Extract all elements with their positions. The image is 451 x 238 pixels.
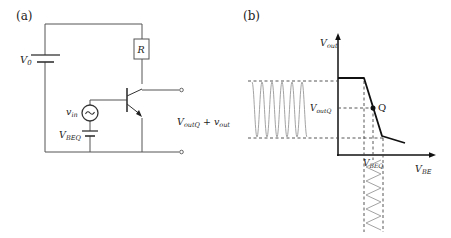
emitter-arrow-icon — [136, 110, 142, 117]
output-terminal-top — [180, 88, 184, 92]
npn-transistor-icon — [127, 88, 142, 117]
y-axis-arrow-icon — [335, 33, 341, 40]
q-label: Q — [378, 102, 386, 113]
figure-canvas: (a) V0 R — [0, 0, 451, 238]
output-signal-waveform — [252, 82, 307, 137]
y-axis-label: Vout — [320, 37, 338, 50]
output-voltage-label: VoutQ+vout — [177, 116, 230, 129]
x-axis-arrow-icon — [429, 152, 436, 158]
ac-source-label: vin — [66, 106, 78, 119]
battery-v0-label: V0 — [20, 54, 32, 67]
resistor-label: R — [137, 44, 145, 55]
voutq-tick-label: VoutQ — [310, 103, 331, 114]
panel-a-circuit: (a) V0 R — [16, 9, 230, 154]
bias-battery-icon — [82, 131, 98, 136]
panel-b-label: (b) — [243, 9, 260, 23]
axes — [335, 33, 436, 158]
panel-b-transfer-curve: (b) Vout VBE Q VoutQ VBEQ — [243, 9, 436, 232]
x-axis-label: VBE — [415, 163, 432, 176]
battery-v0-icon — [31, 55, 60, 62]
top-wire — [45, 24, 142, 55]
transfer-curve — [338, 78, 405, 143]
ac-source-icon — [82, 105, 98, 121]
base-wire — [90, 100, 127, 105]
bias-battery-label: VBEQ — [59, 129, 81, 142]
output-terminal-bottom — [180, 150, 184, 154]
panel-a-label: (a) — [16, 9, 33, 23]
operating-point-q — [371, 106, 376, 111]
input-signal-waveform — [366, 160, 381, 230]
